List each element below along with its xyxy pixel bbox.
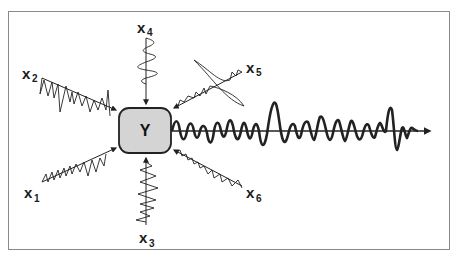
svg-text:6: 6 (256, 193, 262, 204)
svg-text:5: 5 (256, 67, 262, 78)
svg-text:x: x (22, 65, 31, 82)
input-x4: x 4 (137, 19, 157, 104)
svg-text:x: x (24, 184, 33, 201)
input-x3: x 3 (136, 158, 158, 249)
svg-text:x: x (137, 19, 146, 36)
input-x1: x 1 (24, 148, 116, 204)
svg-text:1: 1 (34, 193, 40, 204)
svg-text:3: 3 (149, 238, 155, 249)
svg-text:x: x (139, 229, 148, 246)
svg-text:Y: Y (140, 122, 151, 139)
input-x6: x 6 (174, 150, 262, 204)
svg-text:x: x (246, 184, 255, 201)
output-signal (172, 103, 430, 150)
input-x5: x 5 (174, 59, 262, 108)
signal-diagram: Y x 4 x 2 x 5 x 1 x 3 x 6 (0, 0, 457, 259)
output-node-y: Y (119, 108, 171, 153)
input-x2: x 2 (22, 65, 116, 116)
svg-text:x: x (246, 59, 255, 76)
svg-text:2: 2 (32, 73, 38, 84)
svg-text:4: 4 (147, 27, 153, 38)
